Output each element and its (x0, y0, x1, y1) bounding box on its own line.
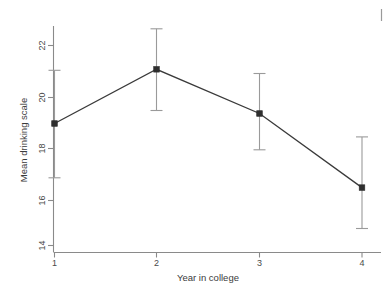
line-chart-svg: 22 20 18 16 14 Mean drinking scale 1 2 3… (0, 0, 390, 302)
y-tick-label: 22 (37, 40, 47, 50)
chart-figure: 22 20 18 16 14 Mean drinking scale 1 2 3… (0, 0, 390, 302)
y-tick-label: 16 (37, 195, 47, 205)
x-axis-title: Year in college (177, 272, 239, 283)
x-tick-label: 2 (154, 258, 159, 268)
x-tick-label: 4 (359, 258, 364, 268)
x-tick-label: 1 (52, 258, 57, 268)
data-point-year-3 (257, 111, 263, 117)
data-point-year-4 (359, 185, 365, 191)
x-tick-label: 3 (257, 258, 262, 268)
y-tick-label: 20 (37, 92, 47, 102)
data-point-year-2 (154, 67, 160, 73)
y-axis-title: Mean drinking scale (18, 98, 29, 183)
chart-background (0, 0, 390, 302)
data-point-year-1 (52, 121, 58, 127)
y-tick-label: 18 (37, 143, 47, 153)
y-tick-label: 14 (37, 240, 47, 250)
